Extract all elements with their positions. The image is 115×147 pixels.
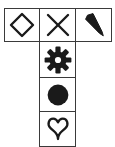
symbol-cell-diamond[interactable]: [4, 8, 40, 42]
inverted-heart-outline-icon: [45, 116, 71, 142]
filled-circle-icon: [45, 82, 71, 108]
symbol-cell-inverted-heart[interactable]: [39, 111, 76, 147]
pen-nib-icon: [81, 12, 107, 38]
symbol-cell-gear[interactable]: [39, 41, 76, 78]
symbol-cell-circle[interactable]: [39, 77, 76, 112]
symbol-grid: [0, 0, 115, 147]
symbol-cell-pen-nib[interactable]: [75, 8, 112, 42]
diamond-outline-icon: [9, 12, 35, 38]
gear-icon: [44, 46, 72, 74]
cross-x-icon: [45, 12, 71, 38]
symbol-cell-cross[interactable]: [39, 8, 76, 42]
